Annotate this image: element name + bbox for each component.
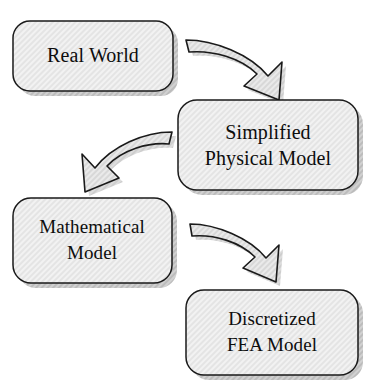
node-discretized-fea-model[interactable]: Discretized FEA Model — [186, 290, 363, 380]
node-label-line-2: Model — [67, 242, 117, 263]
node-real-world[interactable]: Real World — [13, 21, 178, 96]
flow-diagram: Real World Simplified Physical Model Mat… — [0, 0, 373, 385]
node-label-line-1: Discretized — [228, 308, 316, 329]
arrow-simplified-to-mathematical — [82, 132, 176, 196]
arrow-body — [190, 224, 279, 282]
node-label-line-1: Real World — [47, 44, 139, 66]
arrow-body — [82, 132, 172, 192]
arrow-real-world-to-simplified — [186, 40, 286, 104]
node-label-line-1: Simplified — [225, 121, 310, 144]
node-label-line-2: Physical Model — [205, 147, 332, 170]
arrow-body — [186, 40, 282, 100]
node-simplified-physical-model[interactable]: Simplified Physical Model — [178, 100, 363, 195]
node-box — [178, 100, 358, 190]
node-box — [186, 290, 358, 375]
node-mathematical-model[interactable]: Mathematical Model — [13, 198, 177, 288]
node-label-line-1: Mathematical — [39, 216, 145, 237]
node-box — [13, 198, 172, 283]
arrow-mathematical-to-discretized — [190, 224, 283, 286]
node-label-line-2: FEA Model — [227, 334, 317, 355]
diagram-canvas: Real World Simplified Physical Model Mat… — [0, 0, 373, 385]
